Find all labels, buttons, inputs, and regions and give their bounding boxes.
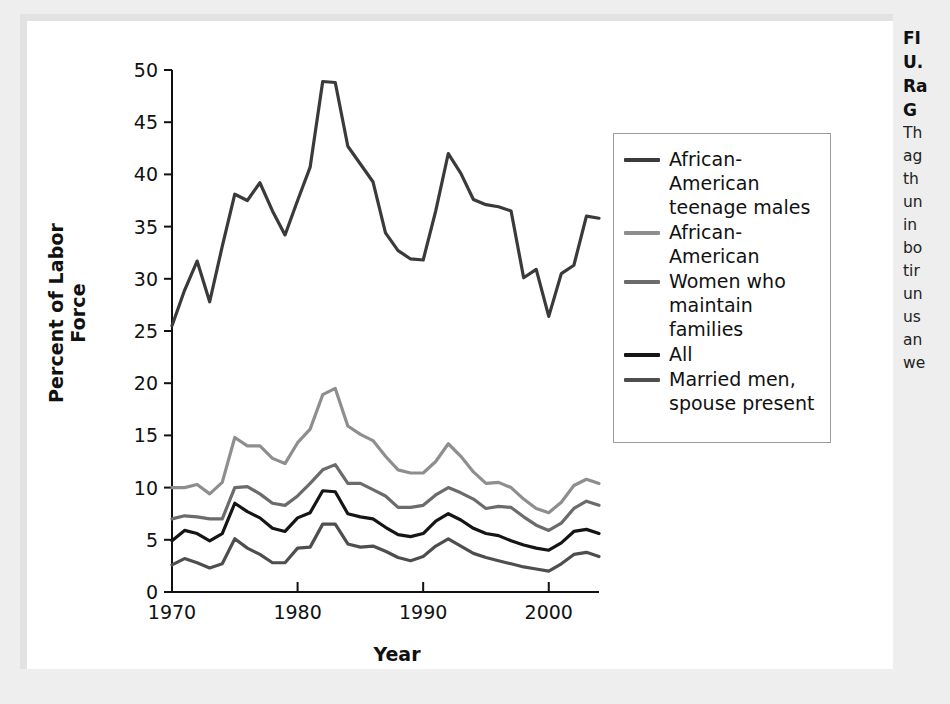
series-line	[172, 465, 599, 531]
caption-body-line: bo	[903, 237, 950, 260]
legend-item: African-American teenage males	[624, 147, 822, 219]
series-line	[172, 81, 599, 325]
y-tick-label: 0	[146, 581, 158, 603]
caption-body-line: un	[903, 283, 950, 306]
caption-body-line: we	[903, 352, 950, 375]
caption-body-line: un	[903, 191, 950, 214]
y-tick-label: 5	[146, 529, 158, 551]
y-tick-label: 20	[134, 372, 158, 394]
legend-color-swatch	[624, 158, 660, 162]
panel-edge-left	[20, 14, 27, 669]
legend-color-swatch	[624, 280, 660, 284]
x-tick-label: 1980	[273, 601, 321, 623]
legend-item: Married men, spouse present	[624, 367, 822, 415]
figure-caption: FIU.RaG Thagthuninbotirunusanwe	[903, 26, 950, 375]
legend-item: African-American	[624, 220, 822, 268]
series-line	[172, 388, 599, 512]
caption-body: Thagthuninbotirunusanwe	[903, 122, 950, 375]
caption-body-line: th	[903, 168, 950, 191]
y-tick-label: 35	[134, 216, 158, 238]
legend-color-swatch	[624, 231, 660, 235]
caption-title-line: G	[903, 98, 950, 122]
y-tick-label: 30	[134, 268, 158, 290]
caption-title-line: Ra	[903, 74, 950, 98]
caption-title-line: FI	[903, 26, 950, 50]
legend-item-label: African-American teenage males	[669, 147, 822, 219]
caption-body-line: in	[903, 214, 950, 237]
legend-item: Women who maintain families	[624, 269, 822, 341]
x-tick-label: 1990	[399, 601, 447, 623]
figure-root: 051015202530354045501970198019902000 Per…	[0, 0, 950, 704]
legend-item-label: African-American	[669, 220, 822, 268]
y-axis-label: Percent of Labor Force	[45, 203, 89, 423]
y-tick-label: 45	[134, 111, 158, 133]
legend-item-label: Married men, spouse present	[669, 367, 822, 415]
caption-body-line: an	[903, 329, 950, 352]
y-tick-label: 50	[134, 59, 158, 81]
caption-body-line: Th	[903, 122, 950, 145]
y-tick-label: 25	[134, 320, 158, 342]
y-tick-label: 15	[134, 424, 158, 446]
caption-body-line: tir	[903, 260, 950, 283]
caption-body-line: ag	[903, 145, 950, 168]
legend-color-swatch	[624, 378, 660, 382]
panel-edge-top	[20, 14, 893, 21]
chart-legend: African-American teenage malesAfrican-Am…	[613, 133, 831, 443]
x-axis-label: Year	[167, 643, 627, 665]
y-tick-label: 10	[134, 477, 158, 499]
caption-body-line: us	[903, 306, 950, 329]
chart-area: 051015202530354045501970198019902000 Per…	[27, 21, 647, 669]
y-tick-label: 40	[134, 163, 158, 185]
legend-item-label: Women who maintain families	[669, 269, 822, 341]
caption-title: FIU.RaG	[903, 26, 950, 122]
x-tick-label: 1970	[148, 601, 196, 623]
caption-title-line: U.	[903, 50, 950, 74]
legend-item: All	[624, 342, 822, 366]
x-tick-label: 2000	[525, 601, 573, 623]
legend-item-label: All	[669, 342, 693, 366]
line-chart-plot: 051015202530354045501970198019902000	[27, 21, 647, 669]
legend-color-swatch	[624, 353, 660, 357]
